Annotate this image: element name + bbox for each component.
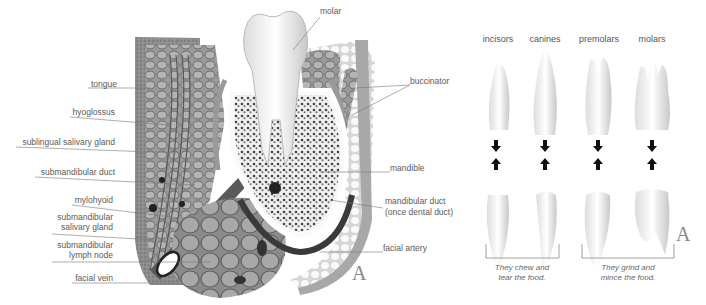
- label-submandibular-salivary-gland-line1: submandibular: [30, 212, 113, 222]
- upper-canine: [534, 50, 557, 135]
- upper-premolar: [585, 58, 611, 135]
- label-mandibular-duct-line2: (once dental duct): [385, 207, 453, 217]
- label-mylohyoid: mylohyoid: [50, 195, 113, 205]
- label-facial-vein: facial vein: [50, 273, 113, 283]
- label-facial-artery: facial artery: [383, 243, 427, 253]
- tooth-type-molars: molars: [622, 34, 682, 44]
- tooth-type-canines: canines: [515, 34, 575, 44]
- panel-letter-a-right: A: [676, 223, 690, 246]
- label-submandibular-lymph-node-line2: lymph node: [30, 250, 113, 260]
- occlusion-arrows: [491, 140, 657, 170]
- label-mandible: mandible: [390, 163, 425, 173]
- caption-incisors-canines-line2: tear the food.: [482, 273, 562, 283]
- caption-incisors-canines: They chew and tear the food.: [482, 263, 562, 283]
- label-submandibular-lymph-node-line1: submandibular: [30, 240, 113, 250]
- caption-premolars-molars-line1: They grind and: [580, 263, 676, 273]
- label-molar: molar: [320, 6, 341, 16]
- lower-molar: [635, 189, 670, 255]
- upper-molar: [635, 62, 670, 130]
- label-mandibular-duct-line1: mandibular duct: [385, 196, 445, 206]
- lower-premolar: [585, 192, 611, 266]
- mandibular-duct-shape: [269, 182, 281, 194]
- label-hyoglossus: hyoglossus: [50, 107, 115, 117]
- label-submandibular-salivary-gland-line2: salivary gland: [30, 222, 113, 232]
- panel-letter-a-left: A: [352, 262, 366, 285]
- label-tongue: tongue: [70, 79, 117, 89]
- label-sublingual-salivary-gland: sublingual salivary gland: [2, 137, 115, 147]
- teeth-comparison: [486, 50, 674, 275]
- caption-premolars-molars-line2: mince the food.: [580, 273, 676, 283]
- label-submandibular-duct: submandibular duct: [20, 167, 115, 177]
- label-buccinator: buccinator: [410, 76, 449, 86]
- upper-incisor: [489, 63, 510, 130]
- lower-incisor: [487, 195, 509, 266]
- tooth-type-premolars: premolars: [569, 34, 629, 44]
- caption-incisors-canines-line1: They chew and: [482, 263, 562, 273]
- caption-premolars-molars: They grind and mince the food.: [580, 263, 676, 283]
